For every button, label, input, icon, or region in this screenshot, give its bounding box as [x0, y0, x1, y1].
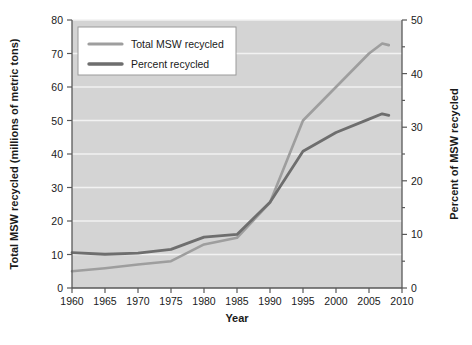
- y-axis-right-title: Percent of MSW recycled: [448, 88, 460, 219]
- chart-container: 1960196519701975198019851990199520002005…: [0, 0, 472, 345]
- legend-label-total-msw-recycled: Total MSW recycled: [131, 38, 224, 50]
- x-tick-label: 1960: [60, 295, 84, 307]
- x-tick-label: 1995: [291, 295, 315, 307]
- recycling-line-chart: 1960196519701975198019851990199520002005…: [0, 0, 472, 345]
- chart-legend: Total MSW recycled Percent recycled: [78, 27, 236, 75]
- y-left-tick-label: 20: [51, 215, 63, 227]
- x-tick-label: 1970: [126, 295, 150, 307]
- x-tick-label: 1985: [225, 295, 249, 307]
- y-right-tick-label: 20: [411, 175, 423, 187]
- y-left-tick-label: 0: [57, 282, 63, 294]
- x-tick-label: 2005: [357, 295, 381, 307]
- x-tick-label: 1965: [93, 295, 117, 307]
- y-axis-left-title: Total MSW recycled (millions of metric t…: [8, 38, 20, 269]
- y-left-tick-label: 70: [51, 48, 63, 60]
- y-left-tick-label: 10: [51, 249, 63, 261]
- y-left-tick-label: 30: [51, 182, 63, 194]
- y-right-tick-label: 30: [411, 121, 423, 133]
- x-tick-label: 2010: [390, 295, 414, 307]
- x-tick-label: 1975: [159, 295, 183, 307]
- y-left-tick-label: 50: [51, 115, 63, 127]
- y-right-tick-label: 40: [411, 68, 423, 80]
- x-tick-label: 1990: [258, 295, 282, 307]
- legend-label-percent-recycled: Percent recycled: [131, 58, 209, 70]
- x-tick-label: 2000: [324, 295, 348, 307]
- x-axis-title: Year: [225, 312, 249, 324]
- y-left-tick-label: 40: [51, 148, 63, 160]
- y-right-tick-label: 10: [411, 228, 423, 240]
- y-left-tick-label: 60: [51, 81, 63, 93]
- y-left-tick-label: 80: [51, 14, 63, 26]
- y-right-tick-label: 50: [411, 14, 423, 26]
- y-right-tick-label: 0: [411, 282, 417, 294]
- x-tick-label: 1980: [192, 295, 216, 307]
